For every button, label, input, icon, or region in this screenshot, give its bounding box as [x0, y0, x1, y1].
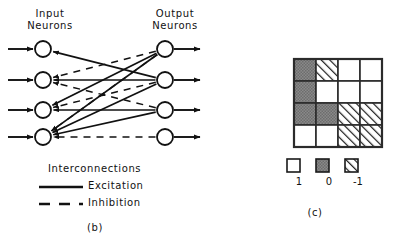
- network-edges: [52, 51, 158, 137]
- cell-minus-one-r1c2: [316, 59, 338, 81]
- cell-minus-one-r4c4: [360, 125, 382, 147]
- cell-minus-one-r4c3: [338, 125, 360, 147]
- cell-minus-one-r3c4: [360, 103, 382, 125]
- output-neuron-2: [157, 72, 173, 88]
- swatch-minus-one: [345, 159, 358, 172]
- panel-b-caption: (b): [70, 222, 120, 234]
- cell-zero-r1c1: [294, 59, 316, 81]
- cell-one-r4c1: [294, 125, 316, 147]
- panel-b-neural-network: Input Neurons Output Neurons Interconnec…: [0, 0, 250, 246]
- matrix-legend-label-0: 0: [316, 176, 342, 187]
- connection-excitation: [53, 112, 155, 135]
- swatch-zero: [316, 159, 329, 172]
- inhibition-line-sample: [38, 200, 84, 208]
- output-neuron-1: [157, 41, 173, 57]
- excitation-line-sample: [38, 183, 84, 191]
- input-neuron-3: [35, 102, 51, 118]
- panel-c-weight-matrix: 1 0 -1 (c): [250, 0, 394, 246]
- cell-zero-r2c1: [294, 81, 316, 103]
- connection-excitation: [53, 84, 157, 133]
- figure-root: Input Neurons Output Neurons Interconnec…: [0, 0, 394, 246]
- network-diagram: [0, 0, 250, 160]
- matrix-legend-swatches: [282, 156, 392, 178]
- matrix-legend-label-neg1: -1: [345, 176, 371, 187]
- matrix-cells: [294, 59, 382, 147]
- cell-one-r2c3: [338, 81, 360, 103]
- interconnections-legend-title: Interconnections: [48, 163, 141, 175]
- cell-zero-r3c2: [316, 103, 338, 125]
- cell-zero-r3c1: [294, 103, 316, 125]
- cell-one-r4c2: [316, 125, 338, 147]
- cell-one-r2c4: [360, 81, 382, 103]
- output-neuron-4: [157, 129, 173, 145]
- swatch-one: [287, 159, 300, 172]
- input-neuron-2: [35, 72, 51, 88]
- matrix-legend-label-1: 1: [286, 176, 312, 187]
- output-neuron-3: [157, 102, 173, 118]
- weight-matrix-grid: [290, 55, 390, 155]
- excitation-legend-label: Excitation: [88, 180, 144, 192]
- cell-one-r1c3: [338, 59, 360, 81]
- cell-one-r1c4: [360, 59, 382, 81]
- input-neuron-4: [35, 129, 51, 145]
- inhibition-legend-label: Inhibition: [88, 197, 141, 209]
- connection-inhibition: [52, 55, 158, 131]
- cell-one-r2c2: [316, 81, 338, 103]
- cell-minus-one-r3c3: [338, 103, 360, 125]
- input-neuron-1: [35, 41, 51, 57]
- panel-c-caption: (c): [290, 207, 340, 219]
